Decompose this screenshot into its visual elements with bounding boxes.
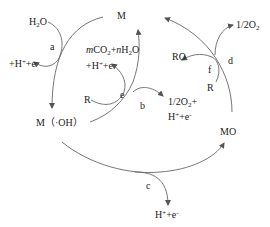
species-h-plus-e-c: H++e- bbox=[155, 208, 179, 220]
arrow-d bbox=[215, 25, 233, 55]
species-r-e: R bbox=[84, 94, 91, 105]
reaction-cycle-diagram: M M（·OH） MO a b c d e f H2O +H++e- mCO2+… bbox=[0, 0, 270, 227]
step-label-d: d bbox=[228, 55, 233, 66]
arrow-c bbox=[135, 172, 168, 205]
arc-moh-to-mo bbox=[62, 142, 224, 173]
species-h-plus-e-b: H++e- bbox=[168, 110, 192, 122]
species-h-plus-e-e: +H++e- bbox=[86, 59, 115, 71]
species-o2-d: 1/2O2 bbox=[236, 19, 260, 34]
step-label-a: a bbox=[50, 41, 54, 52]
species-r-f: R bbox=[207, 82, 214, 93]
step-label-f: f bbox=[208, 64, 211, 75]
step-label-e: e bbox=[120, 89, 124, 100]
node-mo: MO bbox=[220, 126, 236, 137]
node-m-oh: M（·OH） bbox=[36, 117, 83, 128]
species-h2o: H2O bbox=[29, 16, 47, 31]
species-ro: RO bbox=[172, 51, 186, 62]
arrow-f bbox=[182, 54, 219, 82]
species-o2-b: 1/2O2+ bbox=[168, 96, 197, 111]
arrow-b bbox=[133, 87, 163, 96]
node-m: M bbox=[117, 10, 126, 21]
step-label-b: b bbox=[140, 100, 145, 111]
species-h-plus-e-a: +H++e- bbox=[9, 57, 38, 69]
diagram-arrows bbox=[0, 0, 270, 227]
species-mineralization: mCO2+nH2O bbox=[86, 44, 139, 59]
step-label-c: c bbox=[146, 180, 150, 191]
